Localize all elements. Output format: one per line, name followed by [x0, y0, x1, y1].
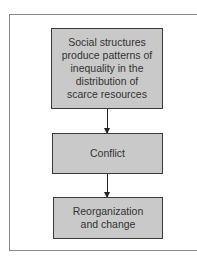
node-conflict: Conflict [52, 133, 163, 174]
node-reorganization: Reorganization and change [53, 197, 163, 239]
node-label: Conflict [90, 147, 125, 160]
node-label: Reorganization and change [73, 205, 144, 231]
arrow-down-icon [107, 109, 108, 133]
node-label: Social structures produce patterns of in… [62, 36, 152, 101]
arrow-down-icon [107, 174, 108, 197]
node-social-structures: Social structures produce patterns of in… [51, 28, 163, 109]
